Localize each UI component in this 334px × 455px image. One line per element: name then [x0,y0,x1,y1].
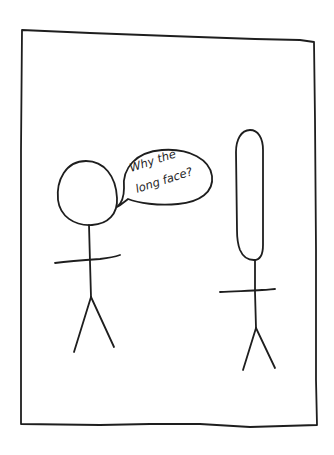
left-figure [55,161,120,352]
right-figure [220,130,275,370]
panel-frame [21,30,317,427]
comic-canvas: Why the long face? [0,0,334,455]
long-head [236,130,263,260]
left-leg [74,297,91,352]
right-leg [256,328,275,368]
body [255,260,256,328]
right-leg [91,297,114,347]
body [89,225,91,297]
arms [220,289,275,292]
speech-bubble: Why the long face? [117,147,212,207]
left-leg [243,328,256,370]
arms [55,255,120,263]
round-head [58,161,117,225]
